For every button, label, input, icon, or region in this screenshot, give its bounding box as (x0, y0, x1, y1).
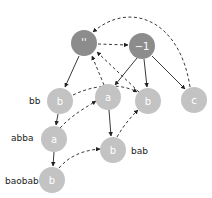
svg-text:b: b (49, 175, 55, 186)
edge-neg1-b2 (144, 59, 147, 87)
trie-diagram: '' −1 b a b c a b b bb abba bab baobab (0, 0, 212, 198)
node-a1: a (95, 84, 121, 110)
node-neg1: −1 (129, 33, 155, 59)
svg-text:b: b (110, 145, 116, 156)
node-b3: b (100, 137, 126, 163)
node-a2: a (41, 126, 67, 152)
svg-text:a: a (51, 134, 57, 145)
link-b4-b3 (59, 149, 100, 168)
node-b2: b (135, 88, 161, 114)
node-b1: b (47, 88, 73, 114)
label-abba: abba (11, 133, 33, 143)
svg-text:a: a (105, 92, 111, 103)
link-root-neg1 (98, 44, 128, 45)
edge-root-b1 (65, 56, 79, 87)
svg-text:b: b (57, 96, 63, 107)
edge-b1-a2 (56, 114, 58, 125)
edge-a1-b3 (109, 110, 111, 136)
node-c1: c (181, 87, 207, 113)
edge-a2-b4 (53, 152, 54, 166)
svg-text:'': '' (81, 37, 87, 48)
label-bab: bab (131, 146, 148, 156)
label-baobab: baobab (5, 176, 39, 186)
label-bb: bb (29, 96, 41, 106)
edge-neg1-c1 (152, 56, 185, 89)
svg-text:−1: −1 (135, 41, 150, 52)
node-b4: b (39, 167, 65, 193)
link-a1-root (92, 56, 104, 85)
svg-text:c: c (191, 95, 197, 106)
edge-neg1-a1 (115, 58, 137, 85)
link-b3-b2 (117, 110, 138, 137)
node-root: '' (71, 30, 97, 56)
svg-text:b: b (145, 96, 151, 107)
